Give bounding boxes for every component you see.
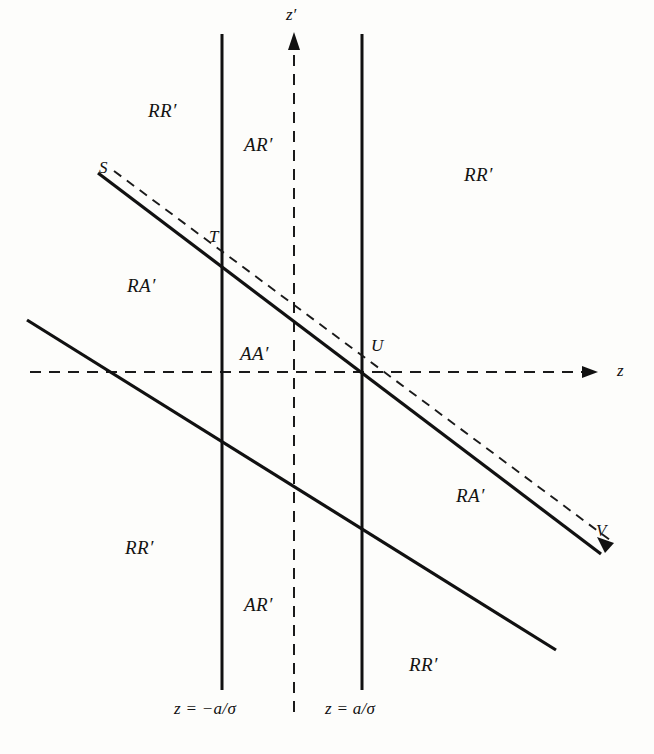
diagram-canvas xyxy=(0,0,654,754)
region-label-upper-middle-ar: AR′ xyxy=(244,135,273,154)
z-axis-label: z xyxy=(617,362,624,379)
diagonal-dashed xyxy=(114,171,614,543)
region-label-upper-right-rr: RR′ xyxy=(464,165,493,184)
z-prime-axis-arrowhead xyxy=(288,32,300,50)
region-label-lower-right-rr: RR′ xyxy=(409,655,438,674)
region-label-mid-right-ra: RA′ xyxy=(456,486,485,505)
point-label-v: V xyxy=(596,522,606,539)
region-label-center-aa: AA′ xyxy=(240,344,269,363)
point-label-u: U xyxy=(371,337,383,354)
z-axis-arrowhead xyxy=(582,366,598,378)
z-prime-axis-label: z′ xyxy=(286,6,296,23)
region-label-lower-left-rr: RR′ xyxy=(125,538,154,557)
boundary-label-right: z = a/σ xyxy=(325,700,375,717)
region-label-upper-left-rr: RR′ xyxy=(148,101,177,120)
diagonal-solid-upper xyxy=(98,173,601,554)
boundary-label-left: z = −a/σ xyxy=(174,700,236,717)
region-label-lower-middle-ar: AR′ xyxy=(244,595,273,614)
region-label-mid-left-ra: RA′ xyxy=(127,276,156,295)
point-label-t: T xyxy=(209,228,218,245)
point-label-s: S xyxy=(99,159,108,176)
figure-container: z z′ z = −a/σ z = a/σ S T U V RR′ AR′ RR… xyxy=(0,0,654,754)
